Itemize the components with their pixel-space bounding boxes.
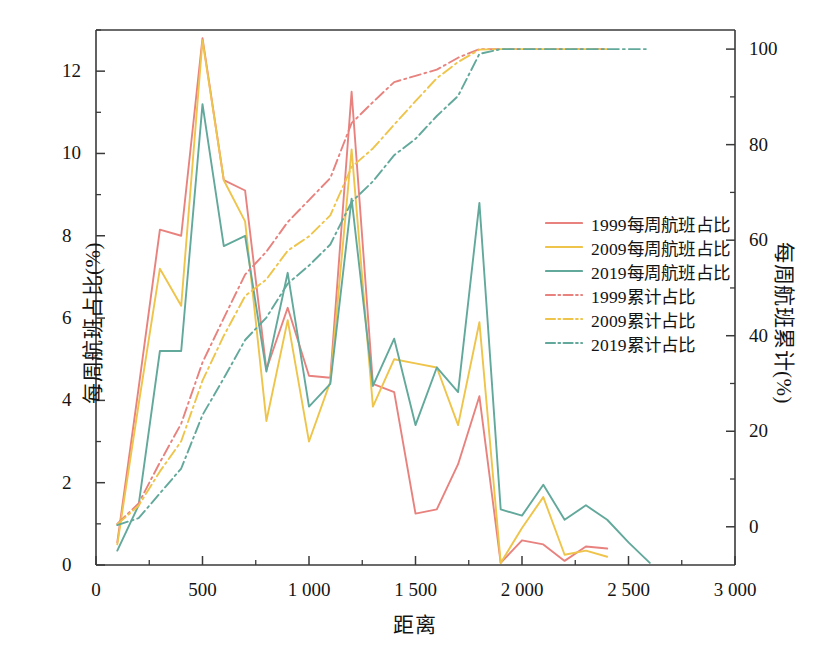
- legend-item-4[interactable]: 2009累计占比: [545, 308, 730, 330]
- legend-item-3[interactable]: 1999累计占比: [545, 284, 730, 306]
- legend-swatch-5: [545, 336, 583, 350]
- legend-label-2: 2019每周航班占比: [591, 259, 730, 284]
- x-axis-title: 距离: [0, 608, 829, 638]
- legend-swatch-1: [545, 240, 583, 254]
- y-axis-left-title: 每周航班占比(%): [76, 242, 106, 404]
- x-tick-label: 1 500: [394, 579, 437, 601]
- legend-swatch-2: [545, 264, 583, 278]
- x-tick-label: 1 000: [288, 579, 331, 601]
- y-tick-label-left: 4: [62, 389, 72, 411]
- chart-legend: 1999每周航班占比2009每周航班占比2019每周航班占比1999累计占比20…: [545, 212, 730, 354]
- y-tick-label-left: 2: [62, 472, 72, 494]
- y-tick-label-right: 80: [749, 134, 768, 156]
- y-tick-label-left: 10: [62, 142, 81, 164]
- y-axis-right-title: 每周航班累计(%): [771, 242, 801, 404]
- x-tick-label: 0: [91, 579, 101, 601]
- legend-label-5: 2019累计占比: [591, 331, 696, 356]
- x-tick-label: 3 000: [714, 579, 757, 601]
- y-tick-label-left: 0: [62, 554, 72, 576]
- y-tick-label-left: 8: [62, 225, 72, 247]
- legend-swatch-0: [545, 216, 583, 230]
- x-tick-label: 2 500: [607, 579, 650, 601]
- legend-item-0[interactable]: 1999每周航班占比: [545, 212, 730, 234]
- legend-item-1[interactable]: 2009每周航班占比: [545, 236, 730, 258]
- legend-label-4: 2009累计占比: [591, 307, 696, 332]
- legend-label-3: 1999累计占比: [591, 283, 696, 308]
- legend-label-1: 2009每周航班占比: [591, 235, 730, 260]
- y-tick-label-left: 12: [62, 60, 81, 82]
- legend-swatch-3: [545, 288, 583, 302]
- y-tick-label-right: 0: [749, 516, 759, 538]
- legend-item-2[interactable]: 2019每周航班占比: [545, 260, 730, 282]
- y-tick-label-right: 100: [749, 38, 778, 60]
- x-tick-label: 500: [188, 579, 217, 601]
- legend-item-5[interactable]: 2019累计占比: [545, 332, 730, 354]
- x-tick-label: 2 000: [501, 579, 544, 601]
- y-tick-label-right: 40: [749, 325, 768, 347]
- series-line-1: [117, 40, 607, 563]
- y-tick-label-left: 6: [62, 307, 72, 329]
- y-tick-label-right: 20: [749, 420, 768, 442]
- y-tick-label-right: 60: [749, 229, 768, 251]
- legend-swatch-4: [545, 312, 583, 326]
- chart-figure: 每周航班占比(%) 每周航班累计(%) 距离 05001 0001 5002 0…: [0, 0, 829, 646]
- legend-label-0: 1999每周航班占比: [591, 211, 730, 236]
